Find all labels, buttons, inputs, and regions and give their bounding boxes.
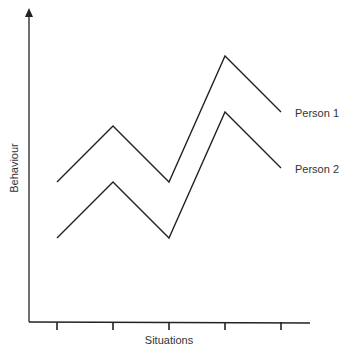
chart-canvas	[0, 0, 344, 351]
legend-label-2: Person 2	[295, 163, 339, 175]
y-axis-arrow-icon	[25, 8, 33, 17]
series-line-2	[57, 112, 281, 238]
y-axis-label: Behaviour	[8, 143, 20, 193]
legend-label-1: Person 1	[295, 107, 339, 119]
series-line-1	[57, 56, 281, 182]
x-axis-label: Situations	[145, 334, 193, 346]
series-lines	[57, 56, 281, 238]
axes	[25, 8, 310, 330]
